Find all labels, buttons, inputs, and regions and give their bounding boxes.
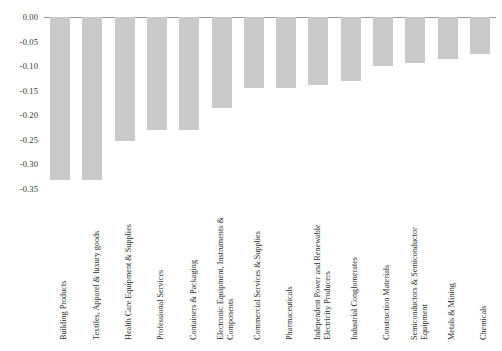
y-axis-tick-label: -0.35 <box>20 184 38 194</box>
y-axis-tick-label: -0.05 <box>20 37 38 47</box>
x-axis-tick-label-line: Construction Materials <box>382 265 392 340</box>
x-axis-tick-label: Commercial Services & Supplies <box>253 231 263 340</box>
x-axis-tick-label-line: Chemicals <box>479 305 489 340</box>
bar <box>470 17 490 54</box>
x-axis-tick-label: Independent Power and RenewableElectrici… <box>313 224 332 340</box>
x-axis-tick-label-line: Health Care Equipment & Supplies <box>124 224 134 340</box>
plot-area <box>44 17 496 189</box>
bar <box>115 17 135 141</box>
y-axis: 0.00-0.05-0.10-0.15-0.20-0.25-0.30-0.35 <box>0 0 44 189</box>
x-axis-tick-label-line: Containers & Packaging <box>189 260 199 340</box>
x-axis-tick-label-line: Building Products <box>59 281 69 340</box>
x-axis-tick-label-line: Metals & Mining <box>447 283 457 340</box>
x-axis-tick-label-line: Industrial Conglomerates <box>350 257 360 340</box>
bar <box>373 17 393 66</box>
x-axis-tick-label: Professional Services <box>156 270 166 340</box>
bar <box>50 17 70 180</box>
x-axis-tick-label: Industrial Conglomerates <box>350 257 360 340</box>
bar <box>308 17 328 85</box>
bar <box>405 17 425 63</box>
y-axis-tick-label: -0.20 <box>20 110 38 120</box>
x-axis-tick-label-line: Independent Power and Renewable <box>313 224 323 340</box>
x-axis-tick-label: Construction Materials <box>382 265 392 340</box>
x-axis-tick-label-line: Commercial Services & Supplies <box>253 231 263 340</box>
y-axis-tick-label: -0.15 <box>20 86 38 96</box>
x-axis-tick-label-line: Electricity Producers <box>322 224 332 340</box>
y-axis-tick-label: -0.25 <box>20 135 38 145</box>
bar <box>276 17 296 88</box>
y-axis-tick-label: -0.10 <box>20 61 38 71</box>
x-axis: Building ProductsTextiles, Apparel & lux… <box>44 190 496 350</box>
bar <box>82 17 102 180</box>
zero-baseline <box>44 17 496 18</box>
x-axis-tick-label-line: Semiconductors & Semiconductor <box>410 227 420 340</box>
y-axis-tick-label: -0.30 <box>20 159 38 169</box>
x-axis-tick-label: Metals & Mining <box>447 283 457 340</box>
x-axis-tick-label: Building Products <box>59 281 69 340</box>
x-axis-tick-label: Chemicals <box>479 305 489 340</box>
x-axis-tick-label: Pharmaceuticals <box>285 286 295 340</box>
bar <box>244 17 264 88</box>
bar <box>212 17 232 108</box>
bar <box>179 17 199 130</box>
x-axis-tick-label: Electronic Equipment, Instruments &Compo… <box>216 217 235 340</box>
x-axis-tick-label-line: Pharmaceuticals <box>285 286 295 340</box>
x-axis-tick-label-line: Components <box>226 217 236 340</box>
x-axis-tick-label-line: Electronic Equipment, Instruments & <box>216 217 226 340</box>
chart-page: 0.00-0.05-0.10-0.15-0.20-0.25-0.30-0.35 … <box>0 0 502 351</box>
bar <box>341 17 361 81</box>
x-axis-tick-label: Health Care Equipment & Supplies <box>124 224 134 340</box>
x-axis-tick-label: Textiles, Apparel & luxury goods <box>92 231 102 340</box>
x-axis-tick-label: Containers & Packaging <box>189 260 199 340</box>
x-axis-tick-label: Semiconductors & SemiconductorEquipment <box>410 227 429 340</box>
bar <box>438 17 458 59</box>
x-axis-tick-label-line: Textiles, Apparel & luxury goods <box>92 231 102 340</box>
x-axis-tick-label-line: Equipment <box>419 227 429 340</box>
bar <box>147 17 167 130</box>
x-axis-tick-label-line: Professional Services <box>156 270 166 340</box>
y-axis-tick-label: 0.00 <box>23 12 38 22</box>
